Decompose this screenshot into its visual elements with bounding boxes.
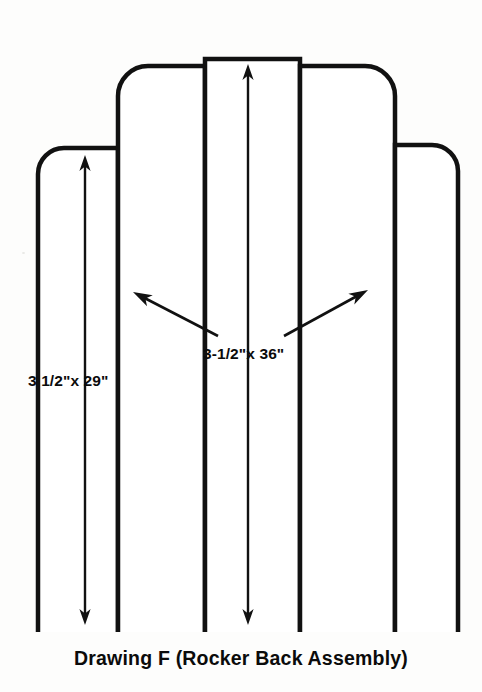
scanned-page-background: 3 1/2"x 29" 3-1/2"x 36" Drawing F (Rocke…	[0, 0, 482, 692]
board-outline-2	[118, 66, 205, 632]
drawing-caption: Drawing F (Rocker Back Assembly)	[74, 647, 408, 669]
dimension-label-outer-slat: 3 1/2"x 29"	[28, 372, 108, 389]
board-outline-5	[395, 145, 458, 632]
rocker-back-assembly-drawing: 3 1/2"x 29" 3-1/2"x 36" Drawing F (Rocke…	[0, 0, 482, 692]
board-outline-4	[300, 66, 395, 632]
board-outline-1	[38, 148, 118, 632]
dimension-label-inner-slat: 3-1/2"x 36"	[203, 345, 284, 362]
